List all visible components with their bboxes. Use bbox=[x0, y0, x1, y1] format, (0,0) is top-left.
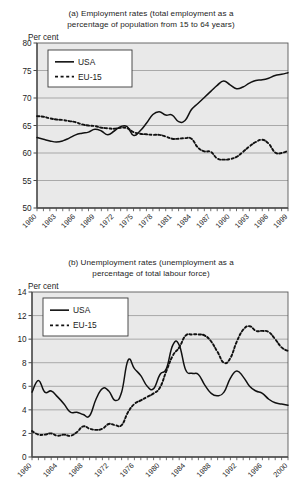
x-tick-label: 1987 bbox=[194, 212, 212, 230]
x-tick-label: 1966 bbox=[59, 212, 77, 230]
x-tick-label: 2000 bbox=[271, 461, 289, 479]
chart-unemployment-rates: (b) Unemployment rates (unemployment as … bbox=[0, 252, 302, 498]
y-tick-label: 80 bbox=[22, 40, 32, 48]
legend-label-eu-15: EU-15 bbox=[78, 72, 102, 82]
y-tick-label: 55 bbox=[22, 177, 32, 186]
y-tick-label: 2 bbox=[22, 429, 27, 438]
chart-b-title: (b) Unemployment rates (unemployment as … bbox=[0, 252, 302, 279]
x-tick-label: 1988 bbox=[195, 461, 213, 479]
legend-label-usa: USA bbox=[73, 305, 91, 315]
y-tick-label: 65 bbox=[22, 122, 32, 131]
x-tick-label: 1980 bbox=[143, 461, 161, 479]
y-tick-label: 10 bbox=[17, 335, 27, 344]
y-tick-label: 6 bbox=[22, 382, 27, 391]
y-tick-label: 14 bbox=[17, 289, 27, 297]
y-tick-label: 70 bbox=[22, 94, 32, 103]
x-tick-label: 1976 bbox=[118, 461, 136, 479]
chart-b-title-line1: (b) Unemployment rates (unemployment as … bbox=[68, 258, 234, 267]
chart-a-title-line1: (a) Employment rates (total employment a… bbox=[69, 9, 234, 18]
x-tick-label: 1969 bbox=[78, 212, 96, 230]
x-tick-label: 1984 bbox=[175, 212, 193, 230]
chart-b-plot: 0246810121419601964196819721976198019841… bbox=[0, 289, 302, 497]
x-tick-label: 1968 bbox=[67, 461, 85, 479]
x-tick-label: 1984 bbox=[169, 461, 187, 479]
legend-label-eu-15: EU-15 bbox=[73, 320, 97, 330]
y-tick-label: 4 bbox=[22, 406, 27, 415]
x-tick-label: 1996 bbox=[252, 212, 270, 230]
legend-label-usa: USA bbox=[78, 57, 96, 67]
x-tick-label: 1960 bbox=[20, 212, 38, 230]
x-tick-label: 1975 bbox=[117, 212, 135, 230]
x-tick-label: 1972 bbox=[92, 461, 110, 479]
x-tick-label: 1999 bbox=[271, 212, 289, 230]
chart-a-plot: 5055606570758019601963196619691972197519… bbox=[0, 40, 302, 248]
x-tick-label: 1978 bbox=[136, 212, 154, 230]
y-tick-label: 60 bbox=[22, 149, 32, 158]
x-tick-label: 1992 bbox=[220, 461, 238, 479]
x-tick-label: 1964 bbox=[41, 461, 59, 479]
x-tick-label: 1993 bbox=[233, 212, 251, 230]
y-tick-label: 8 bbox=[22, 359, 27, 368]
chart-employment-rates: (a) Employment rates (total employment a… bbox=[0, 0, 302, 248]
y-tick-label: 50 bbox=[22, 204, 32, 213]
x-tick-label: 1996 bbox=[246, 461, 264, 479]
y-tick-label: 75 bbox=[22, 67, 32, 76]
x-tick-label: 1960 bbox=[15, 461, 33, 479]
x-tick-label: 1963 bbox=[40, 212, 58, 230]
x-tick-label: 1981 bbox=[156, 212, 174, 230]
chart-a-title: (a) Employment rates (total employment a… bbox=[0, 0, 302, 30]
y-tick-label: 12 bbox=[17, 312, 27, 321]
x-tick-label: 1972 bbox=[98, 212, 116, 230]
chart-b-title-line2: percentage of total labour force) bbox=[92, 269, 209, 278]
chart-a-title-line2: percentage of population from 15 to 64 y… bbox=[67, 20, 234, 29]
x-tick-label: 1990 bbox=[213, 212, 231, 230]
